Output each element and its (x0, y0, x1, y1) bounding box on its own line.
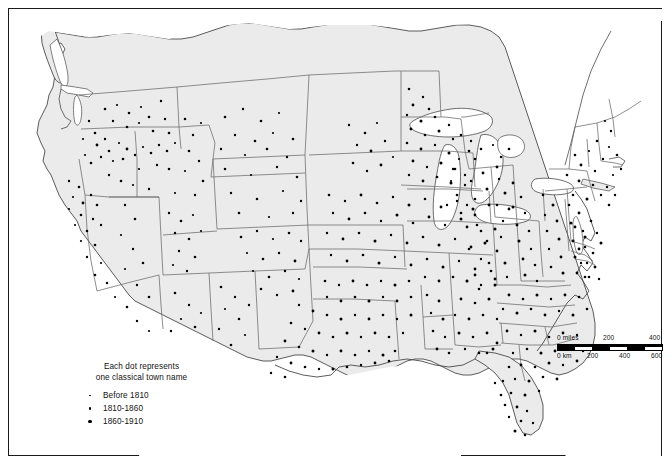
legend-entry-before-1810: Before 1810 (83, 389, 244, 402)
scale-km-200: 200 (587, 352, 598, 359)
scale-miles-labels: 0 miles 200 400 (557, 334, 667, 344)
dot-icon-large (83, 420, 97, 423)
legend-label-1810-1860: 1810-1860 (103, 404, 143, 413)
map-page: Each dot represents one classical town n… (0, 0, 672, 467)
map-scale-bar: 0 miles 200 400 0 km 200 400 600 (557, 334, 667, 362)
scale-bar-graphic (557, 345, 663, 350)
map-frame: Each dot represents one classical town n… (8, 8, 662, 456)
us-landmass (37, 23, 595, 379)
scale-rule-bottom (557, 350, 663, 351)
georgian-bay (498, 135, 525, 158)
scale-km-labels: 0 km 200 400 600 (557, 352, 667, 362)
map-canvas: Each dot represents one classical town n… (9, 9, 663, 457)
legend-entry-1860-1910: 1860-1910 (83, 415, 244, 428)
scale-miles-0: 0 miles (557, 334, 579, 341)
legend-title-line1: Each dot represents (39, 361, 244, 372)
map-legend: Each dot represents one classical town n… (39, 361, 244, 428)
legend-title-line2: one classical town name (39, 372, 244, 383)
scale-miles-200: 200 (603, 334, 614, 341)
legend-label-1860-1910: 1860-1910 (103, 417, 143, 426)
scale-km-0: 0 km (557, 352, 572, 359)
scale-miles-400: 400 (649, 334, 660, 341)
scale-km-400: 400 (619, 352, 630, 359)
scale-km-600: 600 (651, 352, 662, 359)
dot-icon-small (83, 395, 97, 397)
dot-icon-medium (83, 407, 97, 409)
gulf-of-mexico (271, 365, 461, 457)
legend-label-before-1810: Before 1810 (103, 391, 149, 400)
legend-entries: Before 1810 1810-1860 1860-1910 (39, 389, 244, 428)
legend-entry-1810-1860: 1810-1860 (83, 402, 244, 415)
